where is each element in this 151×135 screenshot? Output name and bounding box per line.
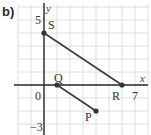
point-label-q: Q: [54, 71, 63, 85]
point-label-r: R: [112, 89, 120, 103]
y-axis-label: y: [45, 2, 51, 14]
coordinate-diagram: b) y x 5 0 7 −3 S R Q P: [0, 0, 151, 135]
point-label-p: P: [85, 110, 92, 124]
y-tick-5: 5: [35, 13, 41, 27]
point-p: [93, 108, 98, 113]
origin-label: 0: [35, 89, 41, 103]
point-label-s: S: [48, 18, 55, 32]
part-label: b): [2, 4, 14, 19]
x-tick-7: 7: [132, 89, 138, 103]
point-s: [41, 30, 46, 35]
y-tick-minus3: −3: [30, 120, 43, 134]
x-axis-label: x: [139, 72, 145, 84]
point-r: [119, 82, 124, 87]
